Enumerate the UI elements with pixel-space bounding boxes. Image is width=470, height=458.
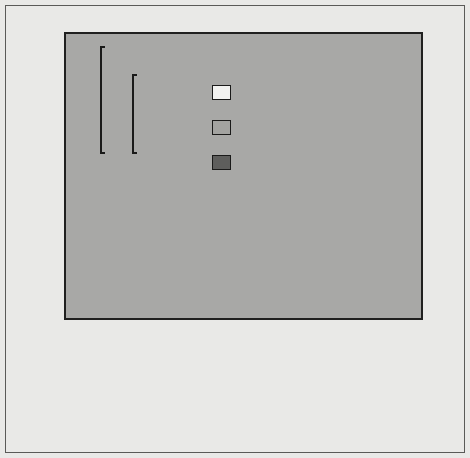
plot-area bbox=[64, 32, 423, 320]
x-axis-labels bbox=[64, 322, 423, 406]
legend-item-dark bbox=[212, 150, 427, 174]
legend-swatch-dark-icon bbox=[212, 155, 231, 170]
legend-swatch-mid-icon bbox=[212, 120, 231, 135]
legend-item-white bbox=[212, 80, 427, 104]
legend-swatch-white-icon bbox=[212, 85, 231, 100]
legend bbox=[212, 80, 427, 185]
legend-item-mid bbox=[212, 115, 427, 139]
figure-container bbox=[0, 0, 470, 458]
